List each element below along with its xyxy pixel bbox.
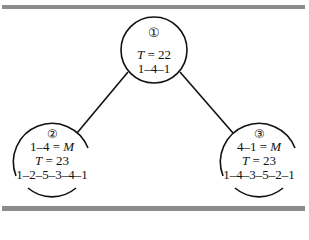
node-2-constraint: 1–4 = M xyxy=(2,140,102,154)
node-3-route: 1–4–3–5–2–1 xyxy=(209,168,309,182)
node-2: ② 1–4 = M T = 23 1–2–5–3–4–1 xyxy=(2,128,102,182)
edge-1-2 xyxy=(77,72,128,133)
edge-1-3 xyxy=(180,72,233,133)
node-2-cost: T = 23 xyxy=(2,154,102,168)
node-1: ① T = 22 1–4–1 xyxy=(114,26,194,76)
node-3-cost: T = 23 xyxy=(209,154,309,168)
node-2-route: 1–2–5–3–4–1 xyxy=(2,168,102,182)
node-3-circle-bottom xyxy=(235,188,283,197)
node-1-route: 1–4–1 xyxy=(114,62,194,76)
node-1-badge: ① xyxy=(114,26,194,40)
node-3: ③ 4–1 = M T = 23 1–4–3–5–2–1 xyxy=(209,128,309,182)
node-3-constraint: 4–1 = M xyxy=(209,140,309,154)
node-2-circle-bottom xyxy=(28,188,76,197)
node-1-cost: T = 22 xyxy=(114,48,194,62)
